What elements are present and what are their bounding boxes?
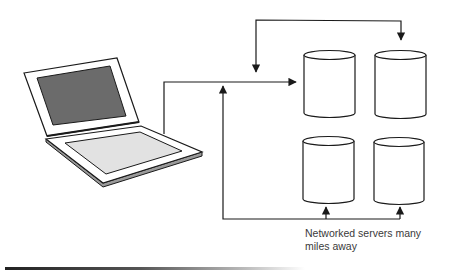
server-1 bbox=[304, 51, 355, 118]
connection-lines bbox=[164, 20, 401, 219]
database-cylinder-icon bbox=[374, 142, 424, 204]
database-cylinder-icon bbox=[304, 55, 355, 118]
caption-line-2: miles away bbox=[305, 240, 421, 253]
caption-line-1: Networked servers many bbox=[305, 227, 421, 240]
server-2 bbox=[375, 51, 426, 119]
database-cylinder-icon bbox=[375, 55, 426, 119]
network-diagram: Networked servers many miles away bbox=[0, 0, 452, 271]
server-3 bbox=[303, 137, 354, 204]
laptop-to-server-line bbox=[164, 82, 296, 134]
database-cylinder-icon bbox=[303, 141, 354, 204]
servers-caption: Networked servers many miles away bbox=[305, 227, 421, 253]
bottom-divider bbox=[5, 267, 305, 270]
laptop-icon bbox=[24, 58, 202, 187]
server-4 bbox=[374, 138, 424, 205]
